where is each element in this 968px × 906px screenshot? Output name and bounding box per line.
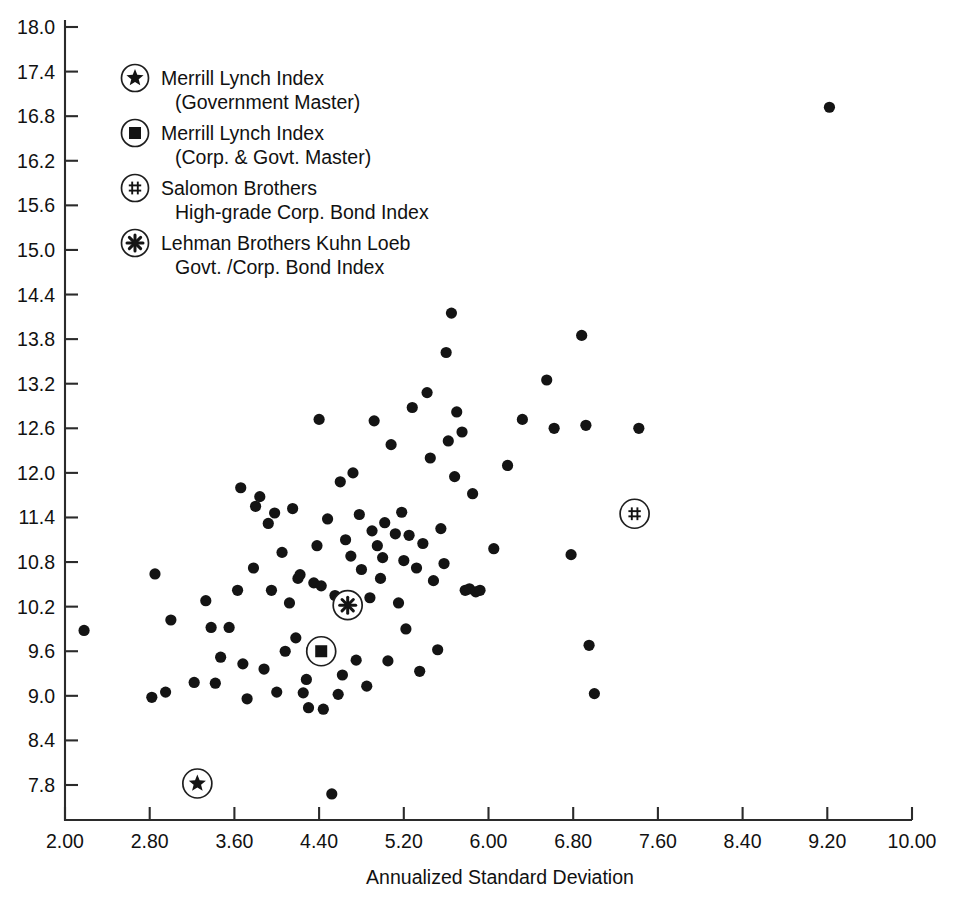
y-tick-label: 9.6 bbox=[28, 640, 55, 662]
data-point bbox=[287, 503, 298, 514]
y-tick-label: 8.4 bbox=[28, 729, 55, 751]
data-point bbox=[356, 564, 367, 575]
y-tick-label: 12.0 bbox=[17, 462, 55, 484]
data-point bbox=[298, 687, 309, 698]
y-tick-label: 13.8 bbox=[17, 328, 55, 350]
data-point bbox=[565, 549, 576, 560]
data-point bbox=[263, 518, 274, 529]
data-point bbox=[549, 423, 560, 434]
data-point bbox=[390, 528, 401, 539]
data-point bbox=[474, 585, 485, 596]
y-tick-label: 15.0 bbox=[17, 239, 55, 261]
data-point bbox=[576, 330, 587, 341]
legend-marker-square bbox=[122, 120, 149, 147]
data-point bbox=[206, 622, 217, 633]
scatter-chart: 18.017.416.816.215.615.014.413.813.212.6… bbox=[0, 0, 968, 906]
y-tick-label: 17.4 bbox=[17, 61, 55, 83]
data-point bbox=[396, 507, 407, 518]
data-point bbox=[443, 435, 454, 446]
y-axis-tick-labels: 18.017.416.816.215.615.014.413.813.212.6… bbox=[17, 16, 55, 796]
data-point bbox=[417, 538, 428, 549]
data-point bbox=[407, 402, 418, 413]
data-point bbox=[316, 580, 327, 591]
index-marker-star bbox=[183, 769, 212, 798]
data-point bbox=[351, 655, 362, 666]
data-point bbox=[258, 663, 269, 674]
data-point bbox=[269, 507, 280, 518]
data-point bbox=[441, 347, 452, 358]
marker-ring bbox=[122, 175, 149, 202]
data-point bbox=[369, 415, 380, 426]
data-point bbox=[271, 687, 282, 698]
data-point bbox=[541, 374, 552, 385]
data-point bbox=[824, 102, 835, 113]
data-point bbox=[314, 414, 325, 425]
data-point bbox=[290, 632, 301, 643]
data-point bbox=[372, 540, 383, 551]
data-point bbox=[580, 420, 591, 431]
data-point bbox=[403, 530, 414, 541]
data-point bbox=[428, 575, 439, 586]
data-point bbox=[446, 308, 457, 319]
data-point bbox=[333, 689, 344, 700]
data-point bbox=[451, 406, 462, 417]
data-point bbox=[78, 625, 89, 636]
legend-label-line2: High-grade Corp. Bond Index bbox=[175, 201, 429, 223]
data-point bbox=[215, 652, 226, 663]
data-point bbox=[435, 523, 446, 534]
data-point bbox=[301, 674, 312, 685]
y-tick-label: 16.8 bbox=[17, 105, 55, 127]
legend-label-line1: Salomon Brothers bbox=[161, 177, 317, 199]
index-marker-square bbox=[307, 637, 336, 666]
data-point bbox=[235, 482, 246, 493]
data-point bbox=[303, 702, 314, 713]
x-tick-label: 4.40 bbox=[300, 830, 338, 852]
asterisk-icon bbox=[133, 241, 138, 246]
data-point bbox=[160, 687, 171, 698]
data-point bbox=[318, 704, 329, 715]
data-point bbox=[232, 585, 243, 596]
data-point bbox=[248, 562, 259, 573]
legend-marker-star bbox=[122, 65, 149, 92]
data-point bbox=[280, 646, 291, 657]
data-point bbox=[364, 592, 375, 603]
x-tick-label: 8.40 bbox=[724, 830, 762, 852]
data-point bbox=[425, 452, 436, 463]
data-point bbox=[210, 678, 221, 689]
data-point bbox=[375, 573, 386, 584]
data-point bbox=[335, 476, 346, 487]
data-point bbox=[149, 568, 160, 579]
square-icon bbox=[129, 127, 141, 139]
data-point bbox=[224, 622, 235, 633]
y-tick-label: 18.0 bbox=[17, 16, 55, 38]
data-point bbox=[242, 693, 253, 704]
plot-canvas: 18.017.416.816.215.615.014.413.813.212.6… bbox=[0, 0, 968, 906]
index-marker-double-dagger bbox=[620, 499, 649, 528]
x-tick-label: 10.00 bbox=[888, 830, 937, 852]
data-point bbox=[438, 558, 449, 569]
data-point bbox=[284, 597, 295, 608]
x-tick-label: 3.60 bbox=[215, 830, 253, 852]
legend-label-line2: (Government Master) bbox=[175, 91, 360, 113]
data-point bbox=[345, 551, 356, 562]
x-tick-label: 6.80 bbox=[554, 830, 592, 852]
y-tick-label: 10.8 bbox=[17, 551, 55, 573]
x-axis-tick-labels: 2.002.803.604.405.206.006.807.608.409.20… bbox=[46, 830, 937, 852]
data-point bbox=[340, 534, 351, 545]
y-tick-label: 10.2 bbox=[17, 596, 55, 618]
data-point bbox=[421, 387, 432, 398]
data-point bbox=[517, 414, 528, 425]
legend: Merrill Lynch Index(Government Master)Me… bbox=[122, 65, 429, 279]
y-tick-label: 11.4 bbox=[18, 506, 55, 528]
y-tick-label: 15.6 bbox=[17, 194, 55, 216]
data-point bbox=[379, 517, 390, 528]
data-point bbox=[432, 644, 443, 655]
y-tick-label: 16.2 bbox=[17, 150, 55, 172]
legend-label-line1: Merrill Lynch Index bbox=[161, 67, 324, 89]
data-point bbox=[400, 623, 411, 634]
legend-label-line1: Merrill Lynch Index bbox=[161, 122, 324, 144]
y-tick-label: 9.0 bbox=[28, 685, 55, 707]
x-tick-label: 7.60 bbox=[639, 830, 677, 852]
data-point bbox=[337, 669, 348, 680]
data-point bbox=[398, 555, 409, 566]
